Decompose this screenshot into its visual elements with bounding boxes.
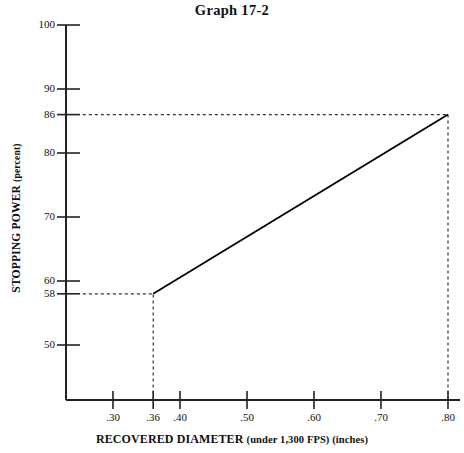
x-tick-label-05: .50 bbox=[227, 412, 267, 423]
y-tick-label-50: 50 bbox=[21, 339, 55, 350]
y-tick-label-58: 58 bbox=[21, 288, 55, 299]
y-tick-label-80: 80 bbox=[21, 147, 55, 158]
y-tick-label-100: 100 bbox=[21, 19, 55, 30]
x-tick-label-07: .70 bbox=[361, 412, 401, 423]
x-tick-label-08: .80 bbox=[428, 412, 464, 423]
series-line-0 bbox=[153, 115, 448, 294]
axes bbox=[66, 25, 460, 400]
data-series bbox=[153, 115, 448, 294]
axis-ticks bbox=[57, 25, 448, 409]
y-tick-label-70: 70 bbox=[21, 211, 55, 222]
plot-area bbox=[0, 0, 464, 453]
y-tick-label-86: 86 bbox=[21, 109, 55, 120]
y-tick-label-60: 60 bbox=[21, 275, 55, 286]
guide-lines bbox=[83, 115, 448, 400]
chart-figure: Graph 17-2 STOPPING POWER (percent) RECO… bbox=[0, 0, 464, 453]
x-tick-label-04: .40 bbox=[160, 412, 200, 423]
y-tick-label-90: 90 bbox=[21, 83, 55, 94]
x-tick-label-03: .30 bbox=[93, 412, 133, 423]
x-tick-label-06: .60 bbox=[294, 412, 334, 423]
